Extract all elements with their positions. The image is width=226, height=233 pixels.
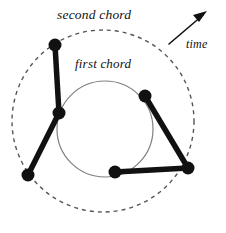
chord-segment-n2-n3: [28, 113, 59, 175]
upper-right-node: [139, 90, 152, 103]
right-node: [182, 162, 195, 175]
second-chord-label: second chord: [57, 8, 131, 22]
figure-canvas: [0, 0, 226, 233]
top-left-node: [49, 39, 62, 52]
chord-segment-n4-n5: [145, 96, 188, 168]
bottom-left-node: [22, 169, 35, 182]
chord-segment-n1-n2: [55, 45, 59, 113]
time-arrow-head: [193, 11, 207, 22]
time-label: time: [186, 38, 207, 50]
mid-left-node: [53, 107, 66, 120]
chord-segment-n5-n6: [115, 168, 188, 172]
chord-figure: second chord first chord time: [0, 0, 226, 233]
bottom-mid-node: [109, 166, 122, 179]
first-chord-label: first chord: [75, 57, 131, 70]
